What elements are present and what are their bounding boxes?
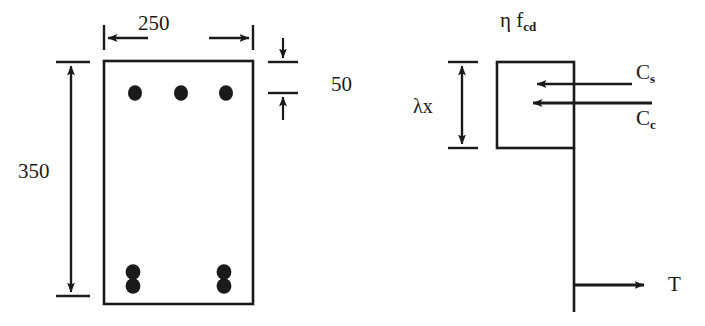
cs-symbol: C <box>636 60 650 84</box>
width-dimension-label: 250 <box>138 13 170 34</box>
height-dimension-label: 350 <box>18 161 50 182</box>
lambda-x-depth-label: λx <box>413 96 433 116</box>
diagram-canvas: 250 350 50 η fcd λx Cs Cc T <box>0 0 705 326</box>
cover-dimension-line <box>268 38 298 120</box>
width-dimension-line <box>104 25 253 50</box>
lambda-x-dimension-line <box>448 62 478 148</box>
top-reinforcement-bars <box>128 85 233 101</box>
cs-force-label: Cs <box>636 62 655 83</box>
bottom-reinforcement-bars <box>126 264 232 294</box>
cover-dimension-label: 50 <box>331 74 352 95</box>
cc-symbol: C <box>636 106 650 130</box>
concrete-design-stress-label: η fcd <box>500 10 536 31</box>
cs-subscript: s <box>650 71 655 86</box>
diagram-vector-layer <box>0 0 705 326</box>
stress-block-rectangle <box>497 62 574 148</box>
stress-label-main: η f <box>500 8 523 32</box>
t-force-label: T <box>668 274 681 295</box>
stress-label-subscript: cd <box>523 19 536 34</box>
cc-subscript: c <box>650 117 656 132</box>
height-dimension-line <box>56 62 90 296</box>
cc-force-label: Cc <box>636 108 656 129</box>
